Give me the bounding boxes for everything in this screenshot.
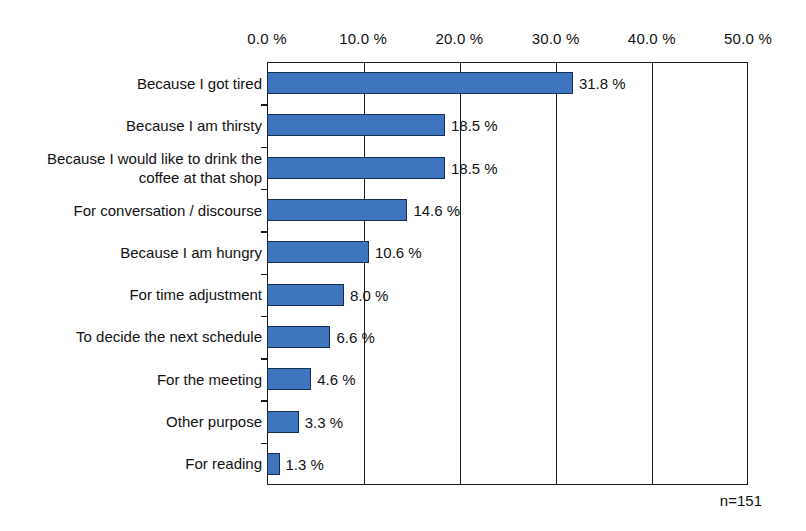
x-axis-tick-label: 10.0 % (339, 30, 387, 47)
bar (267, 411, 299, 433)
category-label: For conversation / discourse (0, 201, 262, 220)
bar-row: 10.6 % (267, 241, 748, 263)
bar-value-label: 1.3 % (286, 455, 324, 472)
category-label: For the meeting (0, 370, 262, 389)
bar-value-label: 8.0 % (350, 286, 388, 303)
bar-row: 6.6 % (267, 326, 748, 348)
x-axis-tick-label: 50.0 % (724, 30, 772, 47)
bar-value-label: 4.6 % (317, 371, 355, 388)
bar (267, 368, 311, 390)
sample-size-annotation: n=151 (720, 492, 762, 509)
bar (267, 326, 330, 348)
bar (267, 157, 445, 179)
bar-row: 1.3 % (267, 453, 748, 475)
bar-row: 18.5 % (267, 157, 748, 179)
bar-value-label: 14.6 % (413, 202, 460, 219)
bar-row: 31.8 % (267, 72, 748, 94)
category-label: For reading (0, 454, 262, 473)
x-axis-tick-label: 0.0 % (247, 30, 286, 47)
bars-layer: 31.8 %18.5 %18.5 %14.6 %10.6 %8.0 %6.6 %… (267, 62, 748, 485)
bar-row: 18.5 % (267, 114, 748, 136)
x-axis-tick-label: 20.0 % (435, 30, 483, 47)
category-label: Other purpose (0, 412, 262, 431)
bar-value-label: 3.3 % (305, 413, 343, 430)
bar (267, 199, 407, 221)
bar-row: 8.0 % (267, 284, 748, 306)
category-axis-labels: Because I got tiredBecause I am thirstyB… (0, 62, 262, 485)
bar-value-label: 18.5 % (451, 117, 498, 134)
category-label: Because I am hungry (0, 243, 262, 262)
bar (267, 453, 280, 475)
x-axis-tick-label: 30.0 % (532, 30, 580, 47)
bar (267, 72, 573, 94)
bar (267, 114, 445, 136)
category-label: To decide the next schedule (0, 327, 262, 346)
bar-row: 4.6 % (267, 368, 748, 390)
bar-value-label: 18.5 % (451, 159, 498, 176)
category-label: Because I would like to drink the coffee… (0, 149, 262, 187)
bar-value-label: 6.6 % (336, 328, 374, 345)
bar-row: 14.6 % (267, 199, 748, 221)
x-axis-tick-label: 40.0 % (628, 30, 676, 47)
category-label: For time adjustment (0, 285, 262, 304)
bar (267, 241, 369, 263)
bar-row: 3.3 % (267, 411, 748, 433)
bar-value-label: 10.6 % (375, 244, 422, 261)
bar (267, 284, 344, 306)
x-axis-tick-labels: 0.0 %10.0 %20.0 %30.0 %40.0 %50.0 % (0, 30, 806, 50)
bar-chart: 0.0 %10.0 %20.0 %30.0 %40.0 %50.0 % 31.8… (0, 0, 806, 531)
bar-value-label: 31.8 % (579, 75, 626, 92)
category-label: Because I got tired (0, 74, 262, 93)
category-label: Because I am thirsty (0, 116, 262, 135)
